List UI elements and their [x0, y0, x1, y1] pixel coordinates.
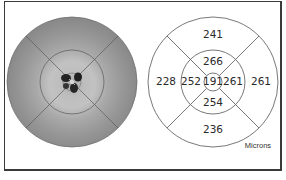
grid-divider	[236, 36, 259, 59]
value-inner-right: 261	[223, 75, 243, 87]
grid-divider	[167, 36, 190, 59]
value-inner-left: 252	[181, 75, 201, 87]
value-outer-left: 228	[156, 75, 176, 87]
value-outer-inferior: 236	[203, 123, 223, 135]
units-label: Microns	[245, 141, 272, 150]
value-center: 191	[203, 75, 223, 87]
value-outer-superior: 241	[203, 28, 223, 40]
value-inner-inferior: 254	[203, 96, 223, 108]
value-inner-superior: 266	[203, 55, 223, 67]
etdrs-figure: 191 266 254 252 261 241 236 228 261 Micr…	[0, 0, 286, 180]
value-outer-right: 261	[251, 75, 271, 87]
grid-divider	[236, 105, 259, 128]
thickness-map	[7, 17, 137, 147]
grid-divider	[167, 105, 190, 128]
